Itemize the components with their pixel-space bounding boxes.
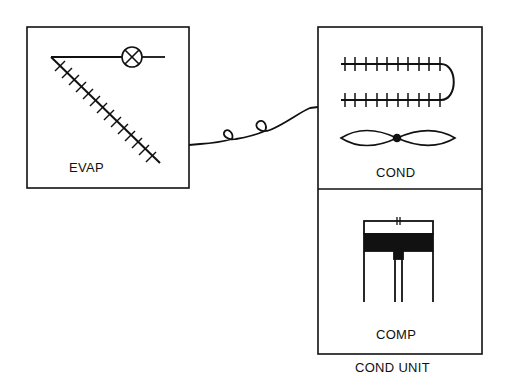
compressor-icon <box>364 217 433 302</box>
expansion-valve-icon <box>51 47 165 67</box>
cond-unit-label: COND UNIT <box>355 360 430 375</box>
refrigeration-diagram <box>0 0 509 388</box>
evaporator-coil-icon <box>51 57 160 163</box>
refrigerant-line <box>189 107 318 145</box>
comp-label: COMP <box>376 327 416 342</box>
evap-label: EVAP <box>69 160 104 175</box>
evap-box <box>27 27 189 188</box>
cond-unit-box <box>318 27 482 354</box>
cond-label: COND <box>376 165 415 180</box>
condenser-fan-icon <box>341 130 455 145</box>
condenser-coil-icon <box>341 57 454 107</box>
